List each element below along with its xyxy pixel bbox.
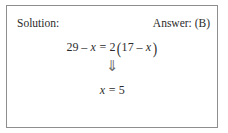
math-body: 29–x=2(17–x) ⇓ x=5 bbox=[7, 39, 217, 98]
result-relation: = bbox=[106, 83, 119, 97]
result-value: 5 bbox=[119, 83, 125, 97]
equation-lhs-operator: – bbox=[79, 40, 90, 54]
solution-box: Solution: Answer: (B) 29–x=2(17–x) ⇓ x=5 bbox=[6, 5, 218, 128]
equation-inner-operator: – bbox=[134, 40, 145, 54]
header-row: Solution: Answer: (B) bbox=[7, 14, 217, 32]
equation-result: x=5 bbox=[7, 82, 217, 98]
equation-inner-number: 17 bbox=[122, 40, 134, 54]
equation-main: 29–x=2(17–x) bbox=[7, 39, 217, 55]
equation-inner-variable: x bbox=[145, 40, 152, 54]
equation-coefficient: 2 bbox=[110, 40, 116, 54]
result-variable: x bbox=[99, 83, 106, 97]
equation-lhs-variable: x bbox=[90, 40, 97, 54]
equation-relation: = bbox=[97, 40, 110, 54]
solution-label: Solution: bbox=[17, 14, 59, 32]
implication-arrow-row: ⇓ bbox=[7, 57, 217, 75]
equation-lhs-number: 29 bbox=[66, 40, 78, 54]
close-paren: ) bbox=[152, 44, 157, 54]
open-paren: ( bbox=[116, 44, 121, 54]
down-double-arrow-icon: ⇓ bbox=[106, 57, 119, 75]
answer-label: Answer: (B) bbox=[153, 14, 210, 32]
